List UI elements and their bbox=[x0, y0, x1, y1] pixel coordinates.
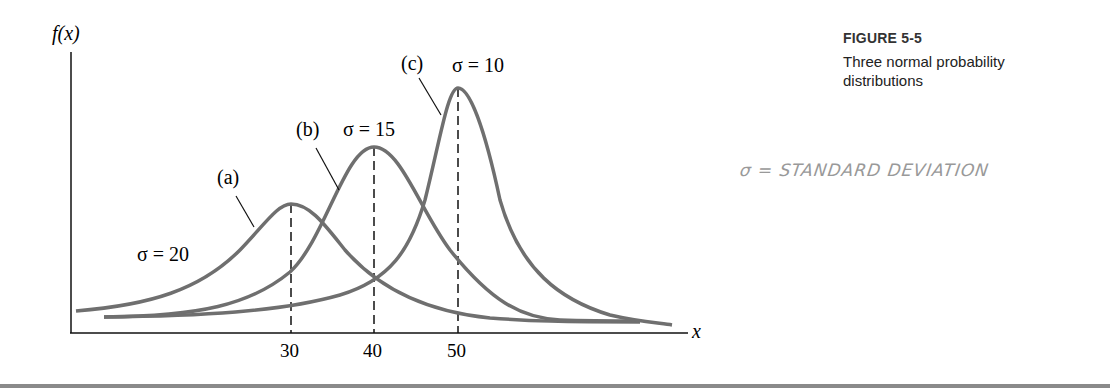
x-tick-40: 40 bbox=[363, 340, 382, 362]
x-tick-30: 30 bbox=[280, 340, 299, 362]
leader-c bbox=[419, 78, 441, 115]
figure-label: FIGURE 5-5 bbox=[843, 30, 1023, 46]
label-c: (c) bbox=[401, 52, 423, 75]
figure-caption: FIGURE 5-5 Three normal probability dist… bbox=[843, 30, 1023, 90]
figure-caption-text: Three normal probability distributions bbox=[843, 52, 1023, 90]
x-axis-label: x bbox=[692, 320, 701, 343]
page-bottom-rule bbox=[0, 384, 1110, 388]
y-axis-label: f(x) bbox=[52, 22, 80, 45]
label-b: (b) bbox=[296, 118, 319, 141]
curve-b bbox=[104, 147, 640, 321]
sigma-label-a: σ = 20 bbox=[137, 243, 189, 266]
label-a: (a) bbox=[217, 166, 239, 189]
leader-a bbox=[236, 196, 254, 227]
x-tick-50: 50 bbox=[447, 340, 466, 362]
sigma-label-c: σ = 10 bbox=[452, 54, 504, 77]
sigma-label-b: σ = 15 bbox=[343, 118, 395, 141]
leader-b bbox=[316, 148, 339, 190]
handwritten-note: σ = STANDARD DEVIATION bbox=[739, 160, 991, 180]
